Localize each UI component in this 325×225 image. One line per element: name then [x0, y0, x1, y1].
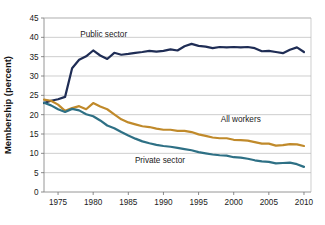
gridlines — [44, 18, 311, 173]
y-tick-label-25: 25 — [29, 91, 39, 100]
y-tick-label-5: 5 — [34, 169, 39, 178]
x-tick-label-2000: 2000 — [225, 198, 244, 207]
x-tick-label-2005: 2005 — [260, 198, 279, 207]
y-tick-label-30: 30 — [29, 72, 39, 81]
annotation-private-sector: Private sector — [135, 156, 185, 165]
annotation-public-sector: Public sector — [80, 30, 127, 39]
series-line-public-sector — [44, 44, 304, 103]
y-tick-label-20: 20 — [29, 111, 39, 120]
y-tick-label-40: 40 — [29, 33, 39, 42]
y-axis-ticks: 051015202530354045 — [29, 14, 44, 197]
x-tick-label-1975: 1975 — [49, 198, 68, 207]
y-tick-label-15: 15 — [29, 130, 39, 139]
x-tick-label-1990: 1990 — [154, 198, 173, 207]
union-membership-chart: 051015202530354045 197519801985199019952… — [0, 0, 325, 225]
y-tick-label-10: 10 — [29, 149, 39, 158]
x-tick-label-1980: 1980 — [84, 198, 103, 207]
y-axis-title: Membership (percent) — [2, 56, 13, 154]
series-line-all-workers — [44, 100, 304, 146]
y-tick-label-45: 45 — [29, 14, 39, 23]
x-tick-label-2010: 2010 — [295, 198, 314, 207]
y-tick-label-35: 35 — [29, 53, 39, 62]
x-tick-label-1985: 1985 — [119, 198, 138, 207]
annotation-all-workers: All workers — [221, 115, 261, 124]
chart-canvas: 051015202530354045 197519801985199019952… — [0, 0, 325, 225]
data-series — [44, 44, 304, 167]
y-tick-label-0: 0 — [34, 188, 39, 197]
x-axis-ticks: 19751980198519901995200020052010 — [49, 192, 314, 207]
x-tick-label-1995: 1995 — [189, 198, 208, 207]
